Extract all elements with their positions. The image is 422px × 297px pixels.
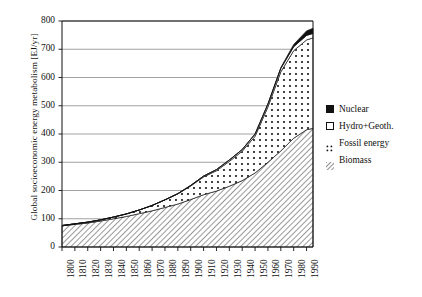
legend-label-biomass: Biomass — [339, 155, 371, 165]
legend-item-nuclear: Nuclear — [326, 100, 422, 117]
legend-item-biomass: Biomass — [326, 151, 422, 168]
legend-label-fossil-energy: Fossil energy — [339, 138, 389, 148]
solid-black-swatch-icon — [326, 105, 334, 113]
chart-figure: Global socioeconomic energy metabolism [… — [0, 0, 422, 297]
open-square-swatch-icon — [326, 122, 334, 130]
legend-label-nuclear: Nuclear — [339, 104, 369, 114]
chart-legend: Nuclear Hydro+Geoth. Fossil energy Bioma… — [326, 100, 422, 168]
area-bands — [62, 28, 313, 247]
legend-item-fossil-energy: Fossil energy — [326, 134, 422, 151]
dotted-swatch-icon — [326, 139, 334, 147]
legend-item-hydro-geoth: Hydro+Geoth. — [326, 117, 422, 134]
hatched-swatch-icon — [326, 156, 334, 164]
legend-label-hydro-geoth: Hydro+Geoth. — [339, 121, 394, 131]
